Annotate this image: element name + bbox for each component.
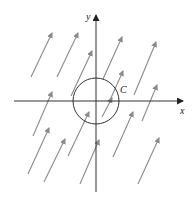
vector-arrow xyxy=(28,128,49,174)
vector-arrow xyxy=(142,85,157,121)
vector-arrow xyxy=(103,37,122,79)
x-axis-label: x xyxy=(179,105,185,116)
curve-label: C xyxy=(120,84,127,95)
vector-arrow xyxy=(31,33,52,77)
vector-arrow xyxy=(57,33,78,77)
vector-arrow xyxy=(113,112,133,157)
vector-arrow xyxy=(138,138,159,184)
vector-arrow xyxy=(134,42,156,95)
vector-field-diagram: y x C xyxy=(0,0,193,199)
vector-arrow xyxy=(33,92,52,136)
vector-arrow xyxy=(68,112,89,156)
vector-arrow xyxy=(71,51,92,96)
y-axis-label: y xyxy=(85,11,91,22)
vector-field-arrows xyxy=(28,33,159,184)
vector-arrow xyxy=(44,139,65,182)
